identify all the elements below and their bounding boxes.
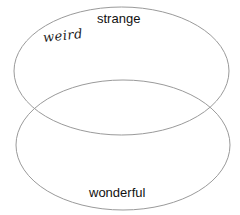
- venn-diagram: [0, 0, 240, 215]
- set-ellipse-strange: [14, 7, 229, 135]
- venn-diagram-canvas: strange weird wonderful: [0, 0, 240, 215]
- set-label-wonderful: wonderful: [89, 186, 145, 199]
- handwritten-annotation-weird: weird: [42, 27, 83, 44]
- set-label-strange: strange: [97, 12, 140, 25]
